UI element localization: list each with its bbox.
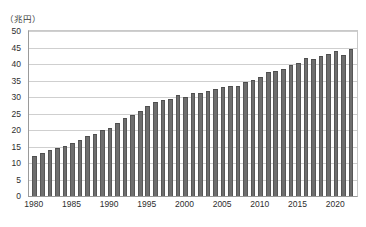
- bar-slot: [332, 31, 340, 196]
- bar: [334, 51, 339, 196]
- x-axis-tick-label: 1995: [137, 199, 156, 209]
- bar-slot: [159, 31, 167, 196]
- bar: [243, 82, 248, 196]
- bar-slot: [144, 31, 152, 196]
- y-axis-tick-label: 10: [12, 158, 21, 168]
- bar: [228, 86, 233, 196]
- bar: [93, 134, 98, 196]
- y-axis-tick-label: 40: [12, 59, 21, 69]
- bar-slot: [46, 31, 54, 196]
- bar: [55, 148, 60, 196]
- bar: [183, 97, 188, 196]
- bar-slot: [189, 31, 197, 196]
- y-axis-tick-label: 0: [16, 191, 21, 201]
- bar-slot: [347, 31, 355, 196]
- bar: [258, 77, 263, 196]
- x-axis-tick-label: 2020: [326, 199, 345, 209]
- bar-slot: [280, 31, 288, 196]
- bar: [341, 55, 346, 196]
- bar: [198, 93, 203, 196]
- bar-slot: [340, 31, 348, 196]
- bar-slot: [317, 31, 325, 196]
- y-axis-tick-label: 30: [12, 92, 21, 102]
- y-axis-tick-label: 35: [12, 76, 21, 86]
- x-axis-tick-labels: 198019851990199520002005201020152020: [28, 199, 358, 215]
- bar: [311, 59, 316, 196]
- bar: [138, 111, 143, 196]
- bar-slot: [325, 31, 333, 196]
- bar: [70, 143, 75, 196]
- bar: [78, 140, 83, 196]
- bar-slot: [129, 31, 137, 196]
- bar-slot: [167, 31, 175, 196]
- bar-slot: [182, 31, 190, 196]
- bar: [161, 100, 166, 196]
- bar-slot: [249, 31, 257, 196]
- bar: [304, 58, 309, 196]
- bar: [115, 123, 120, 196]
- bar: [273, 71, 278, 196]
- bar: [206, 91, 211, 196]
- bar: [48, 150, 53, 196]
- bar-slot: [152, 31, 160, 196]
- bar-slot: [204, 31, 212, 196]
- bar-slot: [76, 31, 84, 196]
- bar-slot: [212, 31, 220, 196]
- x-axis-tick-label: 2015: [288, 199, 307, 209]
- bar: [213, 89, 218, 196]
- bar: [63, 146, 68, 196]
- bar: [168, 99, 173, 196]
- x-axis-tick-label: 1980: [24, 199, 43, 209]
- bar: [153, 102, 158, 196]
- x-axis-tick-label: 2005: [213, 199, 232, 209]
- bar: [123, 118, 128, 196]
- bar-series: [29, 31, 357, 196]
- bar-slot: [310, 31, 318, 196]
- x-axis-tick-label: 1985: [62, 199, 81, 209]
- bar: [40, 153, 45, 196]
- bar: [108, 128, 113, 196]
- bar: [100, 130, 105, 196]
- y-axis-tick-label: 20: [12, 125, 21, 135]
- bar: [145, 106, 150, 196]
- y-axis-tick-label: 25: [12, 109, 21, 119]
- bar-slot: [302, 31, 310, 196]
- bar-slot: [31, 31, 39, 196]
- bar: [32, 156, 37, 196]
- bar-slot: [54, 31, 62, 196]
- bar: [319, 56, 324, 196]
- y-axis-unit-label: （兆円）: [5, 12, 41, 24]
- bar-slot: [227, 31, 235, 196]
- x-axis-tick-label: 1990: [100, 199, 119, 209]
- bar: [176, 95, 181, 196]
- bar-slot: [61, 31, 69, 196]
- bar-slot: [287, 31, 295, 196]
- y-axis-tick-label: 45: [12, 43, 21, 53]
- x-axis-tick-label: 2010: [250, 199, 269, 209]
- bar-slot: [99, 31, 107, 196]
- y-axis-tick-label: 50: [12, 26, 21, 36]
- bar-slot: [91, 31, 99, 196]
- bar-slot: [234, 31, 242, 196]
- bar-slot: [106, 31, 114, 196]
- bar-slot: [69, 31, 77, 196]
- bar-slot: [39, 31, 47, 196]
- plot-area: [28, 30, 358, 197]
- bar-slot: [219, 31, 227, 196]
- bar: [221, 87, 226, 196]
- bar: [266, 72, 271, 196]
- bar: [289, 65, 294, 196]
- bar-chart-figure: （兆円） 50454035302520151050 19801985199019…: [0, 0, 366, 227]
- bar: [130, 115, 135, 196]
- bar: [281, 69, 286, 196]
- bar-slot: [264, 31, 272, 196]
- bar-slot: [114, 31, 122, 196]
- bar: [191, 93, 196, 196]
- bar: [251, 80, 256, 196]
- bar: [326, 54, 331, 196]
- bar: [85, 136, 90, 196]
- bar-slot: [272, 31, 280, 196]
- bar-slot: [121, 31, 129, 196]
- x-axis-tick-label: 2000: [175, 199, 194, 209]
- bar-slot: [257, 31, 265, 196]
